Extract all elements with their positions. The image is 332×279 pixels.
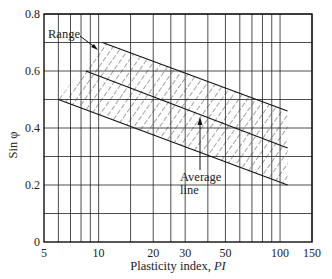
y-tick-label: 0.6 xyxy=(25,64,40,78)
y-axis-ticks: 00.20.40.60.8 xyxy=(25,7,40,249)
y-tick-label: 0.8 xyxy=(25,7,40,21)
y-axis-label: Sin φ xyxy=(6,131,20,158)
x-tick-label: 10 xyxy=(93,246,105,260)
y-tick-label: 0.4 xyxy=(25,121,40,135)
x-tick-label: 50 xyxy=(219,246,231,260)
y-tick-label: 0.2 xyxy=(25,178,40,192)
x-axis-ticks: 510203050100150 xyxy=(41,246,321,260)
range-band xyxy=(58,43,287,186)
x-tick-label: 150 xyxy=(303,246,321,260)
x-tick-label: 30 xyxy=(179,246,191,260)
range-hatch xyxy=(58,43,287,186)
x-axis-label: Plasticity index, PI xyxy=(130,259,226,273)
y-tick-label: 0 xyxy=(34,235,40,249)
average-line-annotation-2: line xyxy=(180,183,199,197)
x-tick-label: 5 xyxy=(41,246,47,260)
x-tick-label: 100 xyxy=(271,246,289,260)
average-line-annotation-1: Average xyxy=(180,170,222,184)
range-annotation: Range xyxy=(48,27,80,41)
x-tick-label: 20 xyxy=(147,246,159,260)
chart: 00.20.40.60.8 510203050100150 Sin φ Plas… xyxy=(0,0,332,279)
